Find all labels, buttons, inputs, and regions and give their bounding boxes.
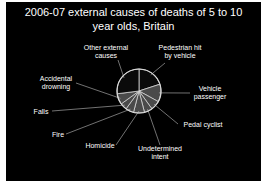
label-pedal-cyclist: Pedal cyclist — [178, 121, 228, 129]
label-fire: Fire — [50, 131, 66, 139]
label-undetermined-intent: Undeterminedintent — [130, 145, 190, 161]
label-homicide: Homicide — [80, 142, 120, 150]
leader-line — [76, 83, 120, 98]
label-other-external-causes: Other externalcauses — [81, 44, 131, 60]
leader-line — [154, 104, 178, 124]
label-falls: Falls — [30, 108, 52, 116]
pie-slice-other-external-causes — [117, 69, 139, 94]
leader-line — [116, 111, 139, 145]
leader-line — [66, 109, 130, 134]
label-pedestrian: Pedestrian hitby vehicle — [155, 44, 205, 60]
leader-line — [52, 105, 125, 111]
label-accidental-drowning: Accidentaldrowning — [36, 75, 76, 91]
leader-line — [148, 109, 160, 145]
leader-line — [151, 63, 165, 75]
label-vehicle-passenger: Vehiclepassenger — [190, 85, 230, 101]
